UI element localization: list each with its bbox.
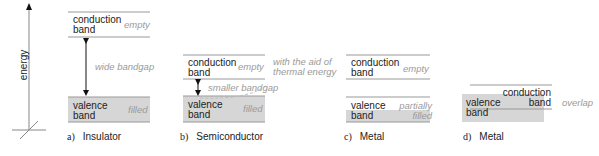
valence-label-c: valence band [351, 101, 396, 121]
caption-d: d)Metal [463, 131, 504, 142]
valence-label-b: valence band [188, 100, 233, 120]
state-empty-c: empty [403, 64, 429, 74]
state-filled-a: filled [128, 105, 148, 115]
state-partial-c: partially filled [396, 101, 432, 121]
valence-label-a: valence band [73, 101, 118, 121]
state-empty-a: empty [124, 20, 150, 30]
conduction-label-c: conduction band [351, 58, 406, 78]
overlap-label: overlap [562, 98, 593, 108]
conduction-label-b: conduction band [188, 58, 243, 78]
gap-label-b: smaller bandgap [208, 83, 278, 93]
caption-b: b)Semiconductor [180, 131, 263, 142]
band-diagram: energy conduction band empty wide bandga… [0, 0, 599, 156]
axis-label: energy [19, 45, 29, 85]
thermal-note: with the aid of thermal energy [273, 57, 353, 77]
gap-label-a: wide bandgap [95, 62, 154, 72]
conduction-label-a: conduction band [73, 15, 128, 35]
caption-c: c)Metal [344, 131, 384, 142]
axis-arrow-icon [26, 3, 32, 10]
valence-label-d: valence band [466, 98, 506, 118]
state-empty-b: empty [238, 62, 264, 72]
caption-a: a)Insulator [67, 131, 121, 142]
state-filled-b: filled [243, 104, 263, 114]
